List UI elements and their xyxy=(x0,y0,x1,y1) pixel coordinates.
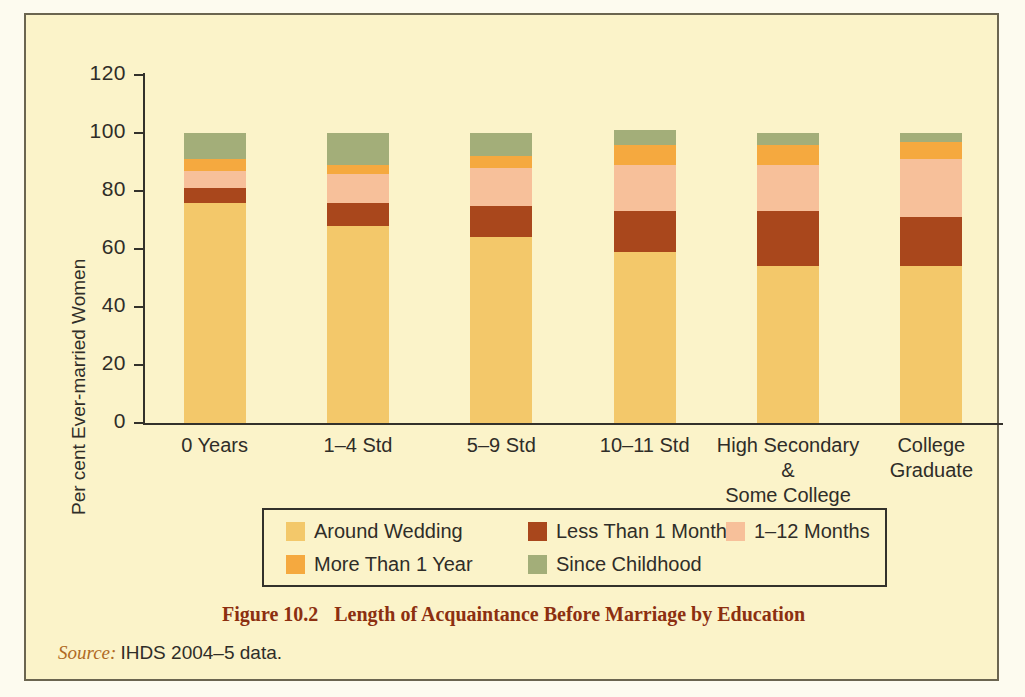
bar-segment xyxy=(327,174,389,203)
figure-caption: Figure 10.2Length of Acquaintance Before… xyxy=(26,603,1001,626)
bar-segment xyxy=(327,226,389,423)
x-category-label-4: 10–11 Std xyxy=(565,433,725,458)
x-category-label-6: CollegeGraduate xyxy=(851,433,1011,483)
bar-segment xyxy=(900,159,962,217)
figure-panel: 020406080100120 Per cent Ever-married Wo… xyxy=(24,13,999,681)
bar-segment xyxy=(757,266,819,423)
x-category-label-line: Graduate xyxy=(851,458,1011,483)
x-category-label-line: High Secondary & xyxy=(708,433,868,483)
bar-5[interactable] xyxy=(757,75,819,423)
figure-number: Figure 10.2 xyxy=(222,603,318,625)
legend-swatch-icon xyxy=(726,522,745,541)
y-tick-label-120: 120 xyxy=(48,61,126,85)
legend-item[interactable]: 1–12 Months xyxy=(726,520,870,543)
bar-segment xyxy=(614,145,676,165)
bar-segment xyxy=(470,133,532,156)
bar-4[interactable] xyxy=(614,75,676,423)
x-category-label-line: College xyxy=(851,433,1011,458)
bar-segment xyxy=(184,133,246,159)
x-axis-line xyxy=(143,423,1003,425)
x-category-label-5: High Secondary &Some College xyxy=(708,433,868,508)
bar-segment xyxy=(184,188,246,203)
legend-swatch-icon xyxy=(286,555,305,574)
bar-6[interactable] xyxy=(900,75,962,423)
x-category-label-2: 1–4 Std xyxy=(278,433,438,458)
legend-swatch-icon xyxy=(528,522,547,541)
bar-segment xyxy=(900,217,962,266)
bar-segment xyxy=(900,266,962,423)
bar-segment xyxy=(327,133,389,165)
y-tick-label-100: 100 xyxy=(48,119,126,143)
bar-segment xyxy=(757,165,819,211)
legend-swatch-icon xyxy=(286,522,305,541)
bar-segment xyxy=(614,130,676,145)
bar-segment xyxy=(757,211,819,266)
bar-segment xyxy=(614,211,676,252)
x-category-label-3: 5–9 Std xyxy=(421,433,581,458)
legend-item[interactable]: Since Childhood xyxy=(528,553,702,576)
bar-segment xyxy=(470,156,532,168)
bar-3[interactable] xyxy=(470,75,532,423)
x-category-label-1: 0 Years xyxy=(135,433,295,458)
bar-1[interactable] xyxy=(184,75,246,423)
bar-2[interactable] xyxy=(327,75,389,423)
legend-item[interactable]: Less Than 1 Month xyxy=(528,520,727,543)
legend-label: 1–12 Months xyxy=(754,520,870,543)
bars-layer xyxy=(143,75,1003,423)
bar-segment xyxy=(757,133,819,145)
x-category-label-line: 0 Years xyxy=(135,433,295,458)
legend-label: More Than 1 Year xyxy=(314,553,473,576)
y-axis-title: Per cent Ever-married Women xyxy=(68,255,90,515)
legend-label: Around Wedding xyxy=(314,520,463,543)
x-category-label-line: 1–4 Std xyxy=(278,433,438,458)
y-tick-label-80: 80 xyxy=(48,177,126,201)
bar-segment xyxy=(184,171,246,188)
legend-swatch-icon xyxy=(528,555,547,574)
figure-source: Source:IHDS 2004–5 data. xyxy=(58,642,282,664)
bar-segment xyxy=(184,159,246,171)
page-canvas: 020406080100120 Per cent Ever-married Wo… xyxy=(0,0,1025,697)
bar-segment xyxy=(327,203,389,226)
x-category-label-line: 5–9 Std xyxy=(421,433,581,458)
legend-label: Less Than 1 Month xyxy=(556,520,727,543)
bar-segment xyxy=(470,168,532,206)
legend-label: Since Childhood xyxy=(556,553,702,576)
bar-segment xyxy=(757,145,819,165)
y-axis-title-wrap: Per cent Ever-married Women xyxy=(78,395,88,405)
source-text: IHDS 2004–5 data. xyxy=(120,642,282,663)
x-category-label-line: 10–11 Std xyxy=(565,433,725,458)
legend-item[interactable]: Around Wedding xyxy=(286,520,463,543)
bar-segment xyxy=(470,237,532,423)
legend-item[interactable]: More Than 1 Year xyxy=(286,553,473,576)
bar-segment xyxy=(614,165,676,211)
source-label: Source: xyxy=(58,642,116,663)
bar-segment xyxy=(184,203,246,423)
bar-segment xyxy=(614,252,676,423)
x-category-label-line: Some College xyxy=(708,483,868,508)
bar-segment xyxy=(900,142,962,159)
bar-segment xyxy=(327,165,389,174)
bar-segment xyxy=(470,206,532,238)
bar-segment xyxy=(900,133,962,142)
figure-caption-text: Length of Acquaintance Before Marriage b… xyxy=(334,603,805,625)
legend-box: Around WeddingLess Than 1 Month1–12 Mont… xyxy=(262,508,887,587)
